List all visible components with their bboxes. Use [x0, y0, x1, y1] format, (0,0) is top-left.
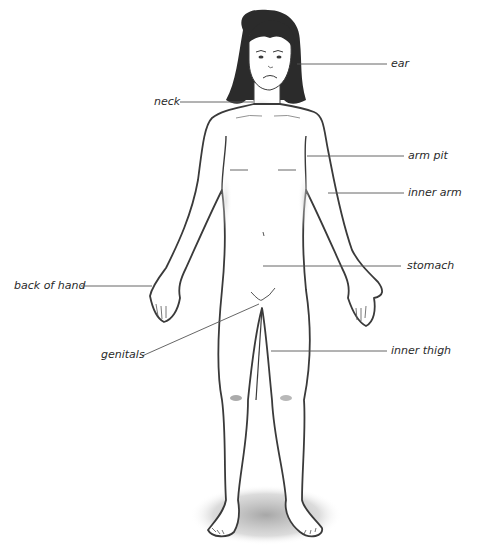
floor-shadow	[190, 485, 342, 545]
label-arm-pit: arm pit	[408, 150, 448, 162]
label-stomach: stomach	[407, 260, 454, 272]
label-neck: neck	[154, 96, 180, 108]
label-inner-thigh: inner thigh	[391, 345, 451, 357]
label-genitals: genitals	[101, 349, 145, 361]
label-inner-arm: inner arm	[408, 187, 462, 199]
body-parts-diagram: ear neck arm pit inner arm stomach back …	[0, 0, 491, 549]
body-outline	[150, 104, 382, 536]
human-figure-illustration	[0, 0, 491, 549]
label-back-of-hand: back of hand	[14, 280, 85, 292]
label-ear: ear	[391, 58, 409, 70]
